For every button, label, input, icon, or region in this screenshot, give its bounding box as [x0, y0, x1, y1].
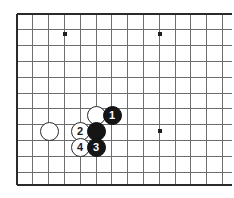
stone-move-number: 4 [77, 141, 83, 152]
go-board-diagram: 1243 [0, 0, 234, 198]
stone-white-corner[interactable] [40, 122, 59, 141]
star-point-bottom-right [158, 129, 162, 133]
stone-black-1[interactable]: 1 [103, 106, 122, 125]
stone-move-number: 2 [77, 125, 83, 136]
stone-move-number: 1 [109, 109, 115, 120]
star-point-top-left [63, 32, 67, 36]
board-surface [0, 0, 234, 198]
stone-black-3[interactable]: 3 [87, 138, 106, 157]
stone-move-number: 3 [93, 141, 99, 152]
star-point-top-right [158, 32, 162, 36]
board-grid [0, 0, 234, 198]
